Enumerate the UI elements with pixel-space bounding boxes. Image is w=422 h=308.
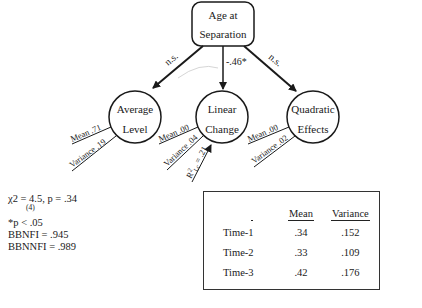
observed-means-table: Mean Variance Time-1 .34 .152 Time-2 .33… [223, 204, 379, 282]
path-diagram: Age at Separation n.s. -.46* n.s. Averag… [0, 0, 422, 190]
average-level-node: Average Level [109, 91, 161, 143]
column-header [223, 204, 280, 222]
table-row: Time-3 .42 .176 [223, 262, 379, 282]
observed-means-table-box: Mean Variance Time-1 .34 .152 Time-2 .33… [203, 191, 380, 290]
table-row: Time-2 .33 .109 [223, 242, 379, 262]
mean-cell: .33 [280, 242, 322, 262]
node-label-line2: Effects [298, 123, 329, 135]
row-label: Time-2 [223, 242, 280, 262]
fit-statistics: χ2 = 4.5, p = .34 (4) *p < .05 BBNFI = .… [8, 193, 77, 253]
degrees-of-freedom: (4) [26, 204, 77, 212]
path-arrow-average [153, 46, 203, 88]
bbnfi: BBNFI = .945 [8, 229, 77, 241]
covariance-arc [178, 66, 218, 78]
node-label-line1: Age at [208, 9, 237, 21]
node-label-line2: Change [205, 123, 239, 135]
column-header-variance: Variance [322, 204, 379, 222]
node-label-line1: Quadratic [291, 103, 334, 115]
variance-cell: .152 [322, 222, 379, 242]
node-label-line1: Average [117, 103, 154, 115]
column-header-mean: Mean [280, 204, 322, 222]
significance-note: *p < .05 [8, 217, 77, 229]
mean-cell: .42 [280, 262, 322, 282]
age-at-separation-node: Age at Separation [192, 2, 254, 46]
node-label-line2: Level [122, 123, 147, 135]
path-label-linear: -.46* [226, 56, 247, 67]
node-label-line2: Separation [199, 28, 247, 40]
variance-cell: .176 [322, 262, 379, 282]
row-label: Time-1 [223, 222, 280, 242]
mean-cell: .34 [280, 222, 322, 242]
chi-square: χ2 = 4.5, p = .34 [8, 193, 77, 205]
variance-cell: .109 [322, 242, 379, 262]
bbnnfi: BBNNFI = .989 [8, 241, 77, 253]
quadratic-effects-node: Quadratic Effects [287, 91, 339, 143]
linear-change-node: Linear Change [196, 91, 248, 143]
path-arrow-quadratic [244, 46, 296, 91]
path-label-quadratic: n.s. [267, 51, 285, 68]
node-label-line1: Linear [208, 103, 237, 115]
row-label: Time-3 [223, 262, 280, 282]
table-row: Time-1 .34 .152 [223, 222, 379, 242]
path-label-average: n.s. [162, 50, 180, 67]
